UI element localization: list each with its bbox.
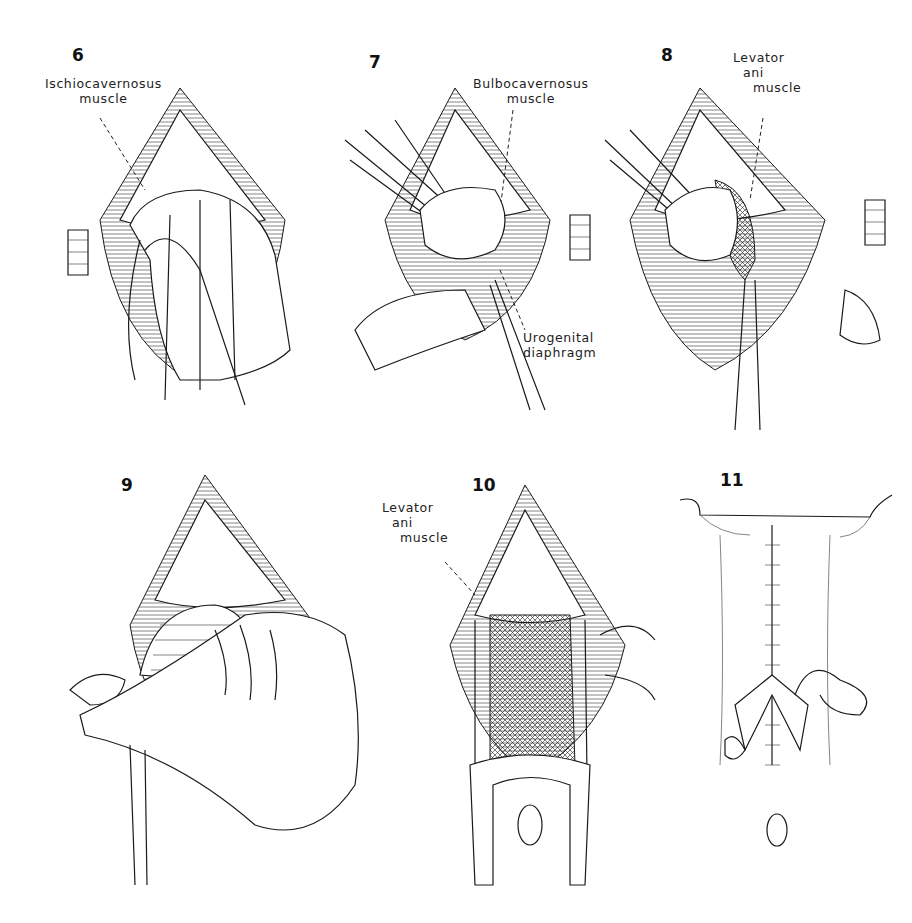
figure-panel-7: 7 Bulbocavernosus muscle Urogenital diap… bbox=[345, 40, 595, 420]
surgical-drawing bbox=[605, 40, 905, 440]
figure-panel-6: 6 Ischiocavernosus muscle bbox=[60, 40, 320, 420]
figure-panel-10: 10 Levator ani muscle bbox=[375, 465, 675, 885]
surgical-drawing bbox=[345, 40, 595, 420]
surgical-drawing bbox=[65, 465, 385, 885]
figure-panel-8: 8 Levator ani muscle bbox=[605, 40, 905, 440]
surgical-drawing bbox=[680, 465, 912, 885]
surgical-drawing bbox=[60, 40, 320, 420]
figure-panel-11: 11 bbox=[680, 465, 912, 885]
surgical-drawing bbox=[375, 465, 675, 885]
figure-panel-9: 9 bbox=[65, 465, 385, 885]
